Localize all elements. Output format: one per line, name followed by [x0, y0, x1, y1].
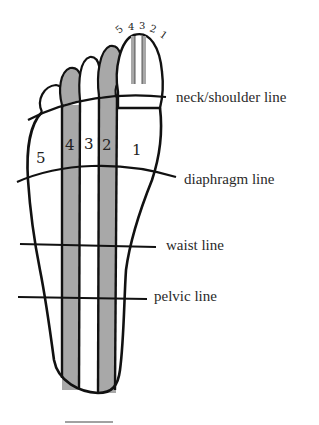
svg-text:2: 2	[148, 23, 158, 36]
pelvic-line-label: pelvic line	[154, 288, 217, 305]
svg-text:5: 5	[113, 23, 125, 36]
sole-zone-numbers: 5 4 3 2 1	[36, 135, 142, 167]
svg-text:4: 4	[65, 136, 75, 154]
svg-text:3: 3	[139, 20, 145, 31]
diaphragm-line-label: diaphragm line	[184, 171, 274, 188]
svg-text:1: 1	[158, 29, 170, 42]
waist-line	[20, 244, 156, 247]
svg-text:4: 4	[128, 21, 134, 32]
foot-reflexology-diagram: 5 4 3 2 1 5 4 3 2 1	[0, 0, 319, 425]
neck-shoulder-line-label: neck/shoulder line	[176, 89, 286, 106]
svg-text:3: 3	[84, 135, 94, 153]
svg-text:1: 1	[132, 141, 142, 159]
svg-text:5: 5	[36, 149, 46, 167]
waist-line-label: waist line	[166, 237, 224, 254]
pelvic-line	[18, 297, 147, 299]
svg-text:2: 2	[102, 136, 112, 154]
